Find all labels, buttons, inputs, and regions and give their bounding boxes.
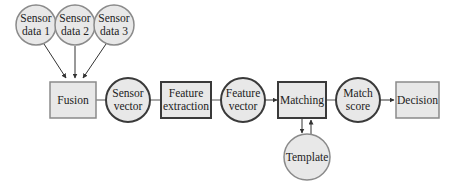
node-feature-vector: Feature vector <box>221 78 265 122</box>
feature-vector-line2: vector <box>229 100 258 112</box>
node-sensor-data-2: Sensor data 2 <box>55 5 95 45</box>
node-sensor-data-1: Sensor data 1 <box>16 5 56 45</box>
matching-label: Matching <box>280 94 324 107</box>
sensor-vector-line1: Sensor <box>112 87 143 99</box>
match-score-line1: Match <box>343 87 373 99</box>
fusion-label: Fusion <box>57 94 89 106</box>
sensor-data-2-line2: data 2 <box>61 25 89 37</box>
biometric-fusion-diagram: Sensor data 1 Sensor data 2 Sensor data … <box>0 0 456 190</box>
feature-extraction-line2: extraction <box>163 100 209 112</box>
node-decision: Decision <box>396 82 439 118</box>
sensor-data-3-line2: data 3 <box>100 25 128 37</box>
node-feature-extraction: Feature extraction <box>161 82 211 118</box>
sensor-data-3-line1: Sensor <box>98 12 129 24</box>
edge-sensor3-fusion <box>83 44 106 78</box>
feature-vector-line1: Feature <box>226 87 260 99</box>
match-score-line2: score <box>346 100 370 112</box>
feature-extraction-line1: Feature <box>169 87 203 99</box>
sensor-data-1-line1: Sensor <box>20 12 51 24</box>
node-sensor-vector: Sensor vector <box>106 78 150 122</box>
sensor-vector-line2: vector <box>114 100 143 112</box>
template-label: Template <box>286 151 329 164</box>
node-match-score: Match score <box>336 78 380 122</box>
node-sensor-data-3: Sensor data 3 <box>94 5 134 45</box>
sensor-data-1-line2: data 1 <box>22 25 50 37</box>
edge-sensor1-fusion <box>44 44 66 78</box>
sensor-data-2-line1: Sensor <box>59 12 90 24</box>
decision-label: Decision <box>397 94 438 106</box>
node-fusion: Fusion <box>50 82 96 118</box>
node-matching: Matching <box>278 82 326 118</box>
node-template: Template <box>284 134 330 180</box>
